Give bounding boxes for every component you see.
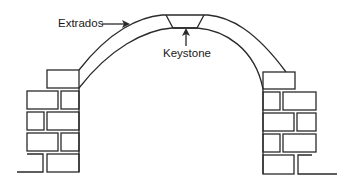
extrados-label: Extrados xyxy=(58,18,103,30)
keystone-shape xyxy=(166,15,204,28)
arch-diagram xyxy=(0,0,352,192)
left-pier xyxy=(17,70,79,172)
keystone-label: Keystone xyxy=(163,48,211,60)
right-pier xyxy=(263,72,337,174)
